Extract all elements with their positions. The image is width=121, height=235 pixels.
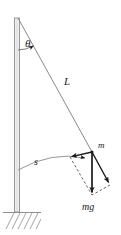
radial-component-vector xyxy=(92,152,109,183)
dashed-construction-line-left xyxy=(70,157,92,195)
weight-label: mg xyxy=(82,201,94,212)
dashed-construction-line-right xyxy=(92,185,110,195)
vertical-pole xyxy=(15,18,20,212)
arc-label: s xyxy=(34,156,38,167)
ground-hatching xyxy=(3,213,41,230)
tangential-component-vector xyxy=(72,152,93,157)
construction-lines xyxy=(70,157,110,195)
figure-canvas: θ L s m mg xyxy=(0,0,121,235)
mass-label: m xyxy=(98,140,105,150)
angle-label: θ xyxy=(25,37,31,49)
hatch-strokes xyxy=(6,213,41,229)
length-label: L xyxy=(63,75,70,87)
arc-length-path xyxy=(18,156,85,170)
mass-bob-point xyxy=(91,151,94,154)
pendulum-diagram: θ L s m mg xyxy=(0,0,121,235)
